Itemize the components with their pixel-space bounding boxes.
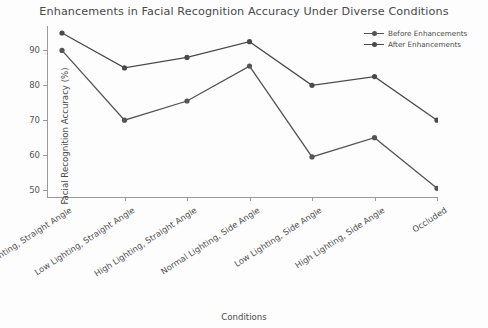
data-point-marker <box>309 154 314 159</box>
data-point-marker <box>184 98 189 103</box>
data-point-marker <box>184 55 189 60</box>
legend-item[interactable]: Before Enhancements <box>364 28 467 39</box>
legend-label: Before Enhancements <box>388 29 467 38</box>
y-tick-label: 70 <box>0 115 40 125</box>
y-axis-label: Facial Recognition Accuracy (%) <box>60 36 70 236</box>
data-point-marker <box>372 135 377 140</box>
series-line <box>62 50 437 188</box>
chart-figure: Enhancements in Facial Recognition Accur… <box>0 0 488 328</box>
y-tick-label: 50 <box>0 185 40 195</box>
chart-legend: Before EnhancementsAfter Enhancements <box>364 28 467 50</box>
series-lines <box>47 26 438 198</box>
data-point-marker <box>122 65 127 70</box>
data-point-marker <box>247 64 252 69</box>
x-axis-label: Conditions <box>0 312 488 322</box>
data-point-marker <box>309 83 314 88</box>
legend-swatch-icon <box>364 29 384 38</box>
data-point-marker <box>372 74 377 79</box>
data-point-marker <box>122 118 127 123</box>
y-tick-label: 60 <box>0 150 40 160</box>
data-point-marker <box>247 39 252 44</box>
y-tick-label: 80 <box>0 80 40 90</box>
legend-item[interactable]: After Enhancements <box>364 39 467 50</box>
y-tick-label: 90 <box>0 45 40 55</box>
data-point-marker <box>59 30 64 35</box>
legend-label: After Enhancements <box>388 40 461 49</box>
legend-swatch-icon <box>364 40 384 49</box>
chart-title: Enhancements in Facial Recognition Accur… <box>0 5 488 18</box>
plot-area: Facial Recognition Accuracy (%) <box>47 26 438 197</box>
